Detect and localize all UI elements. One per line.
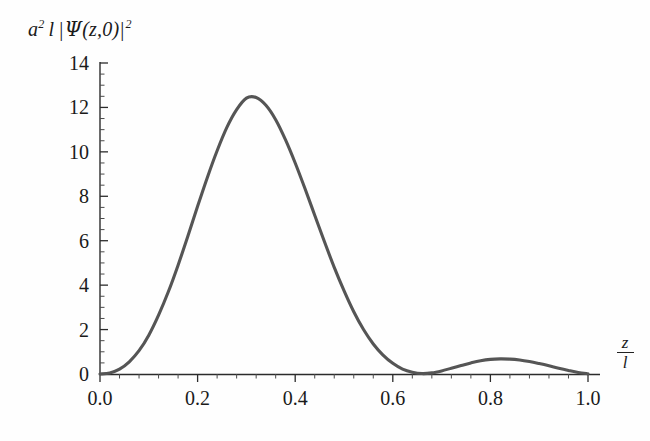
figure-canvas: a2l|Ψ(z,0)|2 z l 02468101214 0.00.20.40.… — [0, 0, 650, 441]
y-axis-ticks — [100, 63, 108, 374]
y-tick-label: 8 — [79, 185, 89, 207]
x-axis-tick-labels: 0.00.20.40.60.81.0 — [88, 387, 601, 409]
y-tick-label: 12 — [69, 96, 89, 118]
y-tick-label: 4 — [79, 274, 89, 296]
x-tick-label: 0.0 — [88, 387, 113, 409]
x-tick-label: 0.8 — [478, 387, 503, 409]
data-series-curve — [100, 97, 588, 374]
x-tick-label: 0.4 — [283, 387, 308, 409]
y-tick-label: 2 — [79, 319, 89, 341]
x-tick-label: 1.0 — [576, 387, 601, 409]
y-tick-label: 6 — [79, 230, 89, 252]
axes-group — [100, 62, 600, 375]
x-axis-ticks — [100, 374, 588, 382]
y-tick-label: 14 — [69, 52, 89, 74]
plot-area: 02468101214 0.00.20.40.60.81.0 — [0, 0, 650, 441]
x-tick-label: 0.2 — [185, 387, 210, 409]
y-axis-tick-labels: 02468101214 — [69, 52, 89, 385]
x-tick-label: 0.6 — [380, 387, 405, 409]
y-tick-label: 10 — [69, 141, 89, 163]
y-tick-label: 0 — [79, 363, 89, 385]
